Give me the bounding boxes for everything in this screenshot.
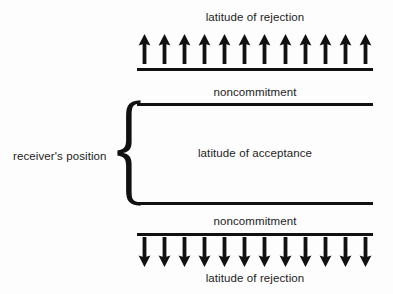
arrow-down-icon [299, 237, 312, 267]
rule-top-rejection-boundary [137, 68, 373, 71]
label-bottom-latitude-of-rejection: latitude of rejection [137, 272, 373, 285]
arrow-down-icon [279, 237, 292, 267]
arrow-up-icon [339, 34, 352, 64]
arrow-down-icon [178, 237, 191, 267]
arrow-down-icon [238, 237, 251, 267]
arrow-up-icon [198, 34, 211, 64]
arrow-down-icon [359, 237, 372, 267]
arrow-up-icon [359, 34, 372, 64]
arrow-up-icon [238, 34, 251, 64]
arrow-up-icon [279, 34, 292, 64]
arrow-up-icon [178, 34, 191, 64]
up-arrow-row [137, 33, 373, 65]
arrow-down-icon [319, 237, 332, 267]
arrow-up-icon [138, 34, 151, 64]
label-receivers-position: receiver's position [13, 150, 114, 163]
label-bottom-noncommitment: noncommitment [137, 215, 373, 228]
arrow-up-icon [299, 34, 312, 64]
arrow-up-icon [258, 34, 271, 64]
arrow-down-icon [158, 237, 171, 267]
arrow-up-icon [158, 34, 171, 64]
down-arrow-row [137, 236, 373, 268]
arrow-down-icon [339, 237, 352, 267]
latitudes-diagram: latitude of rejection noncommitment rece… [0, 0, 393, 294]
arrow-down-icon [138, 237, 151, 267]
arrow-down-icon [198, 237, 211, 267]
arrow-down-icon [218, 237, 231, 267]
label-top-latitude-of-rejection: latitude of rejection [137, 11, 373, 24]
label-latitude-of-acceptance: latitude of acceptance [137, 147, 373, 160]
arrow-up-icon [218, 34, 231, 64]
arrow-up-icon [319, 34, 332, 64]
rule-acceptance-lower-boundary [137, 202, 373, 205]
rule-acceptance-upper-boundary [137, 103, 373, 106]
arrow-down-icon [258, 237, 271, 267]
label-top-noncommitment: noncommitment [137, 86, 373, 99]
